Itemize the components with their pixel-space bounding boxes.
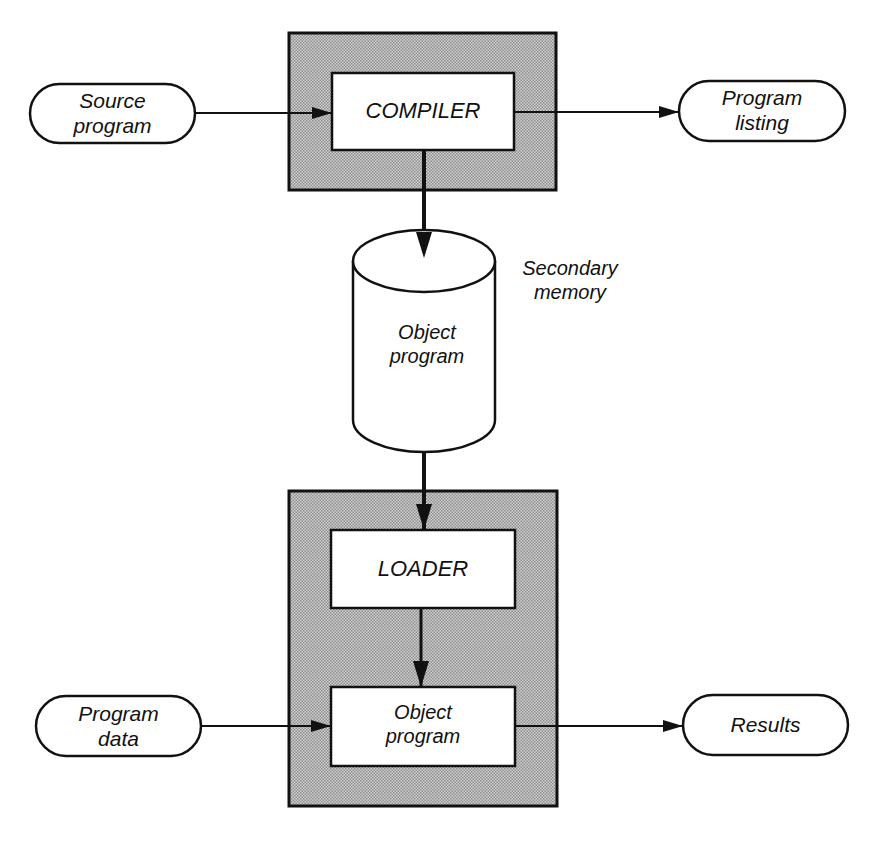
exec-object-program-line2: program <box>331 724 515 748</box>
compiler-label: COMPILER <box>332 98 514 124</box>
program-data-label: Program data <box>36 701 201 751</box>
loader-label-text: LOADER <box>331 556 515 582</box>
storage-object-program-line2: program <box>362 344 492 368</box>
program-listing-label-line1: Program <box>679 85 845 110</box>
storage-object-program-label: Object program <box>362 320 492 368</box>
exec-object-program-label: Object program <box>331 700 515 748</box>
loader-label: LOADER <box>331 556 515 582</box>
storage-object-program-line1: Object <box>362 320 492 344</box>
program-listing-label-line2: listing <box>679 110 845 135</box>
results-label: Results <box>683 712 848 737</box>
source-program-label-line1: Source <box>30 88 195 113</box>
source-program-label: Source program <box>30 88 195 138</box>
program-listing-label: Program listing <box>679 85 845 135</box>
program-data-label-line1: Program <box>36 701 201 726</box>
exec-object-program-line1: Object <box>331 700 515 724</box>
compiler-label-text: COMPILER <box>332 98 514 124</box>
source-program-label-line2: program <box>30 113 195 138</box>
secondary-memory-line1: Secondary <box>500 256 640 280</box>
secondary-memory-caption: Secondary memory <box>500 256 640 304</box>
diagram-canvas: Source program COMPILER Program listing … <box>0 0 878 844</box>
results-label-text: Results <box>683 712 848 737</box>
secondary-memory-line2: memory <box>500 280 640 304</box>
program-data-label-line2: data <box>36 726 201 751</box>
